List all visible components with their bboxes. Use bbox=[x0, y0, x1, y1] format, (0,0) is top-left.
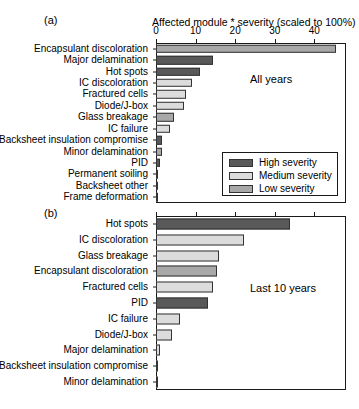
x-tick bbox=[156, 39, 157, 43]
bar bbox=[156, 234, 244, 245]
category-label: Frame deformation bbox=[64, 192, 152, 202]
x-tick bbox=[196, 39, 197, 43]
x-tick bbox=[196, 212, 197, 216]
panel-a-label: (a) bbox=[44, 14, 57, 26]
legend-item-high: High severity bbox=[229, 157, 317, 168]
x-tick bbox=[235, 39, 236, 43]
x-tick-label: 20 bbox=[230, 25, 241, 36]
category-label: PID bbox=[131, 298, 152, 308]
panel-b-label: (b) bbox=[44, 207, 57, 219]
x-axis-title: Affected module * severity (scaled to 10… bbox=[152, 16, 356, 28]
category-label: IC discoloration bbox=[79, 235, 152, 245]
bar bbox=[156, 329, 172, 340]
panel-b-note: Last 10 years bbox=[250, 282, 316, 294]
bar bbox=[156, 102, 184, 110]
category-label: Hot spots bbox=[106, 219, 152, 229]
category-label: Minor delamination bbox=[64, 147, 153, 157]
bar bbox=[156, 345, 160, 356]
x-tick-label: 0 bbox=[153, 25, 159, 36]
category-label: Minor delamination bbox=[64, 377, 153, 387]
bar bbox=[156, 170, 158, 178]
bar bbox=[156, 313, 180, 324]
y-tick bbox=[153, 287, 156, 288]
bar bbox=[156, 266, 217, 277]
category-label: Backsheet insulation compromise bbox=[0, 361, 152, 371]
legend: High severity Medium severity Low severi… bbox=[222, 152, 338, 196]
legend-label-high-severity: High severity bbox=[259, 157, 317, 168]
x-tick bbox=[156, 212, 157, 216]
bar bbox=[156, 79, 192, 87]
bar bbox=[156, 377, 158, 388]
x-tick-label: 40 bbox=[309, 25, 320, 36]
y-tick bbox=[153, 60, 156, 61]
legend-label-low-severity: Low severity bbox=[259, 183, 315, 194]
legend-item-low: Low severity bbox=[229, 183, 315, 194]
y-tick bbox=[153, 151, 156, 152]
category-label: Backsheet other bbox=[76, 181, 152, 191]
y-tick bbox=[153, 318, 156, 319]
legend-swatch-low-severity bbox=[229, 185, 253, 193]
bar bbox=[156, 250, 219, 261]
bar bbox=[156, 282, 213, 293]
bar bbox=[156, 182, 158, 190]
category-label: Glass breakage bbox=[78, 251, 152, 261]
category-label: Diode/J-box bbox=[95, 330, 152, 340]
legend-swatch-high-severity bbox=[229, 159, 253, 167]
category-label: IC failure bbox=[108, 124, 152, 134]
bar bbox=[156, 56, 213, 64]
figure-root: Affected module * severity (scaled to 10… bbox=[0, 0, 359, 409]
y-tick bbox=[153, 255, 156, 256]
category-label: Permanent soiling bbox=[68, 169, 152, 179]
y-tick bbox=[153, 128, 156, 129]
bar bbox=[156, 136, 162, 144]
x-tick bbox=[314, 39, 315, 43]
x-tick bbox=[235, 212, 236, 216]
y-tick bbox=[153, 334, 156, 335]
y-tick bbox=[153, 117, 156, 118]
bar bbox=[156, 298, 208, 309]
y-tick bbox=[153, 271, 156, 272]
legend-item-medium: Medium severity bbox=[229, 170, 332, 181]
y-tick bbox=[153, 105, 156, 106]
y-tick bbox=[153, 223, 156, 224]
bar bbox=[156, 159, 160, 167]
category-label: Hot spots bbox=[106, 67, 152, 77]
y-tick bbox=[153, 71, 156, 72]
y-tick bbox=[153, 366, 156, 367]
category-label: Fractured cells bbox=[82, 282, 152, 292]
category-label: Fractured cells bbox=[82, 89, 152, 99]
category-label: IC discoloration bbox=[79, 78, 152, 88]
y-tick bbox=[153, 382, 156, 383]
category-label: PID bbox=[131, 158, 152, 168]
category-label: Glass breakage bbox=[78, 112, 152, 122]
bar bbox=[156, 361, 158, 372]
y-tick bbox=[153, 185, 156, 186]
x-tick bbox=[275, 39, 276, 43]
legend-label-medium-severity: Medium severity bbox=[259, 170, 332, 181]
y-tick bbox=[153, 197, 156, 198]
y-tick bbox=[153, 350, 156, 351]
category-label: Encapsulant discoloration bbox=[34, 266, 152, 276]
y-tick bbox=[153, 303, 156, 304]
y-tick bbox=[153, 239, 156, 240]
bar bbox=[156, 90, 186, 98]
category-label: Backsheet insulation compromise bbox=[0, 135, 152, 145]
category-label: Encapsulant discoloration bbox=[34, 44, 152, 54]
y-tick bbox=[153, 140, 156, 141]
bar bbox=[156, 44, 336, 52]
y-tick bbox=[153, 94, 156, 95]
bar bbox=[156, 124, 170, 132]
x-tick bbox=[275, 212, 276, 216]
y-tick bbox=[153, 163, 156, 164]
category-label: Major delamination bbox=[64, 55, 153, 65]
bar bbox=[156, 147, 162, 155]
x-tick bbox=[314, 212, 315, 216]
category-label: IC failure bbox=[108, 314, 152, 324]
category-label: Diode/J-box bbox=[95, 101, 152, 111]
bar bbox=[156, 218, 290, 229]
bar bbox=[156, 113, 174, 121]
x-tick-label: 10 bbox=[190, 25, 201, 36]
bar bbox=[156, 193, 158, 201]
y-tick bbox=[153, 48, 156, 49]
legend-swatch-medium-severity bbox=[229, 172, 253, 180]
